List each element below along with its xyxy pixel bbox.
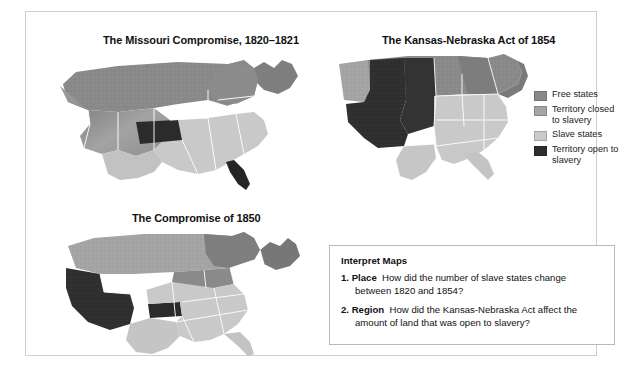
legend-item-territory-open: Territory open to slavery [534, 144, 621, 166]
interpret-maps-box: Interpret Maps 1. Place How did the numb… [329, 245, 615, 345]
map2-territory-closed-region [339, 60, 370, 102]
interpret-maps-heading: Interpret Maps [341, 255, 603, 266]
legend-item-territory-closed: Territory closed to slavery [534, 104, 621, 126]
map-missouri-svg [58, 50, 320, 198]
interpret-question-2: 2. Region How did the Kansas-Nebraska Ac… [341, 303, 603, 329]
legend-item-slave-states: Slave states [534, 129, 621, 141]
question-2-term: Region [352, 304, 385, 315]
legend-swatch-slave-states-icon [534, 131, 547, 141]
legend-label-territory-open: Territory open to slavery [552, 144, 621, 166]
map-compromise-1850 [64, 230, 319, 358]
figure-frame: The Missouri Compromise, 1820–1821 [25, 11, 597, 356]
question-1-text: How did the number of slave states chang… [355, 272, 566, 296]
question-1-number: 1. [341, 272, 349, 283]
map-kansas-svg [338, 50, 533, 190]
legend-label-free-states: Free states [552, 89, 598, 100]
map-compromise-svg [64, 230, 319, 358]
legend-item-free-states: Free states [534, 89, 621, 101]
map-legend: Free states Territory closed to slavery … [534, 89, 621, 169]
legend-label-slave-states: Slave states [552, 129, 602, 140]
legend-swatch-territory-open-icon [534, 146, 547, 156]
legend-swatch-free-states-icon [534, 91, 547, 101]
legend-label-territory-closed: Territory closed to slavery [552, 104, 621, 126]
map-missouri-compromise [58, 50, 320, 198]
map-title-kansas-nebraska: The Kansas-Nebraska Act of 1854 [382, 34, 555, 46]
question-2-number: 2. [341, 304, 349, 315]
map-title-missouri: The Missouri Compromise, 1820–1821 [103, 34, 299, 46]
legend-swatch-territory-closed-icon [534, 106, 547, 116]
map3-slave-states-region [126, 282, 254, 356]
clipped-page-text [8, 0, 528, 4]
map-kansas-nebraska [338, 50, 533, 190]
question-1-term: Place [352, 272, 377, 283]
interpret-question-1: 1. Place How did the number of slave sta… [341, 271, 603, 297]
map-title-compromise-1850: The Compromise of 1850 [132, 212, 261, 224]
